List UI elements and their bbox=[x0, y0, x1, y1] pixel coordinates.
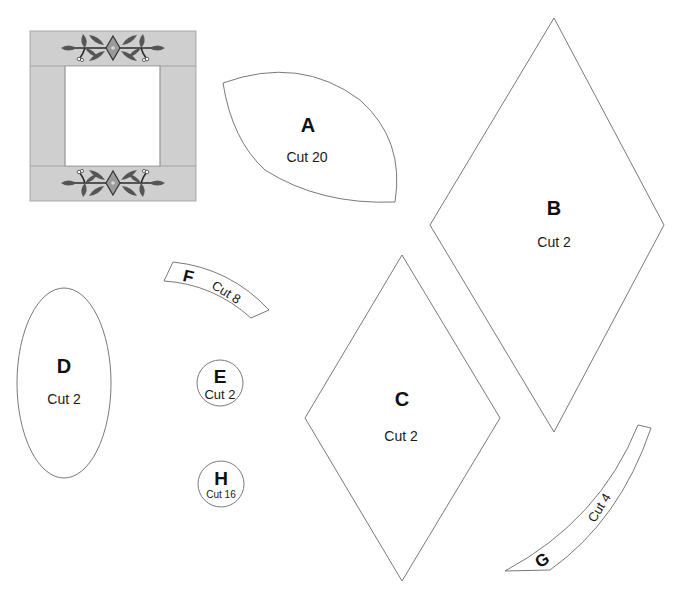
piece-c[interactable]: C Cut 2 bbox=[305, 255, 500, 581]
piece-d[interactable]: D Cut 2 bbox=[17, 288, 111, 478]
piece-h[interactable]: H Cut 16 bbox=[198, 461, 244, 507]
piece-a-outline bbox=[223, 72, 397, 202]
piece-d-letter: D bbox=[57, 355, 71, 377]
piece-g[interactable]: G Cut 4 bbox=[505, 425, 651, 572]
piece-h-cut: Cut 16 bbox=[206, 489, 236, 500]
piece-a-letter: A bbox=[301, 114, 315, 136]
piece-f[interactable]: F Cut 8 bbox=[164, 262, 269, 318]
piece-d-cut: Cut 2 bbox=[47, 391, 81, 407]
piece-a[interactable]: A Cut 20 bbox=[223, 72, 397, 202]
piece-c-outline bbox=[305, 255, 500, 581]
piece-g-outline bbox=[505, 425, 651, 571]
piece-e-letter: E bbox=[214, 366, 227, 387]
frame-center bbox=[65, 66, 160, 166]
piece-e-cut: Cut 2 bbox=[204, 387, 235, 402]
piece-b-letter: B bbox=[547, 197, 561, 219]
piece-b-cut: Cut 2 bbox=[537, 234, 571, 250]
piece-c-letter: C bbox=[395, 388, 409, 410]
piece-c-cut: Cut 2 bbox=[384, 428, 418, 444]
template-sheet: A Cut 20 B Cut 2 C Cut 2 D Cut 2 E Cut 2… bbox=[0, 0, 694, 611]
piece-a-cut: Cut 20 bbox=[286, 149, 327, 165]
piece-e[interactable]: E Cut 2 bbox=[197, 360, 243, 406]
piece-h-letter: H bbox=[214, 468, 228, 489]
block-preview bbox=[30, 31, 196, 201]
piece-d-outline bbox=[17, 288, 111, 478]
